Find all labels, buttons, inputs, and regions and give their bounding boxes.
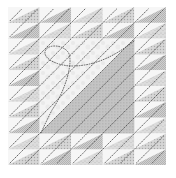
quilt-image: [0, 0, 176, 178]
